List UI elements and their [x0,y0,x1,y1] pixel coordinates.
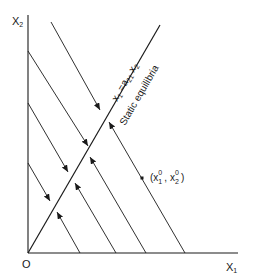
ip-close: ) [181,172,184,183]
ip-supsub-2: 02 [175,172,181,184]
trajectory-arrow-8 [109,122,185,253]
ip-sub1: 1 [158,178,162,185]
equilibrium-line [28,25,160,253]
x-axis-label-sub: 1 [233,267,237,274]
ip-sup1: 0 [158,169,162,176]
ip-sup2: 0 [175,169,179,176]
origin-label: O [22,259,31,270]
ip-supsub-1: 01 [158,172,164,184]
trajectory-arrow-6 [75,183,116,253]
phase-diagram [0,0,253,279]
trajectory-arrow-5 [57,212,80,253]
trajectory-arrow-1 [51,22,100,110]
ip-open: (x [150,172,158,183]
y-axis-label-sub: 2 [19,21,23,28]
y-axis-label: X2 [12,16,23,28]
initial-point-label: (x01, x02) [150,172,184,184]
x-axis-label: X1 [226,262,237,274]
trajectory-arrow-2 [28,51,88,146]
ip-mid: , x [164,172,175,183]
trajectory-arrow-4 [28,163,50,201]
trajectory-arrow-3 [28,103,68,172]
ip-sub2: 2 [175,178,179,185]
initial-point-marker [141,177,144,180]
